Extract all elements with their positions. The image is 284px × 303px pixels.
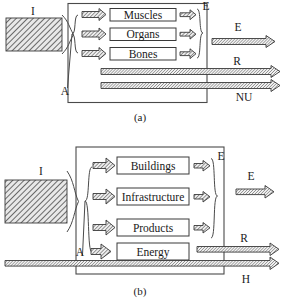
panel-a: I A Muscles Or bbox=[6, 0, 280, 124]
panel-b-output-exergy-label: E bbox=[247, 170, 254, 182]
panel-a-row-muscles: Muscles bbox=[82, 9, 196, 22]
panel-b-inflow-arrow-3 bbox=[93, 220, 115, 235]
panel-b-inflow-arrow-2 bbox=[93, 189, 115, 204]
panel-a-allocation-label: A bbox=[61, 85, 70, 97]
panel-b-box-label-infrastructure: Infrastructure bbox=[122, 191, 185, 203]
panel-b-outflow-arrow-3 bbox=[194, 223, 210, 234]
panel-b: I A Buildings bbox=[5, 147, 279, 298]
panel-a-input-label: I bbox=[31, 5, 35, 17]
panel-b-box-label-energy: Energy bbox=[136, 246, 169, 259]
panel-a-outflow-arrow-2 bbox=[180, 29, 196, 39]
panel-b-outflow-arrow-2 bbox=[194, 192, 210, 203]
panel-a-row-organs: Organs bbox=[82, 28, 196, 41]
panel-b-caption: (b) bbox=[134, 285, 147, 298]
panel-b-allocation-brace bbox=[85, 167, 92, 252]
panel-a-internal-exergy-label: E bbox=[202, 0, 209, 12]
panel-a-inflow-arrow-2 bbox=[82, 28, 106, 40]
panel-a-outflow-arrow-1 bbox=[180, 10, 196, 20]
figure-canvas: I A Muscles Or bbox=[0, 0, 284, 303]
panel-b-row-buildings: Buildings bbox=[93, 157, 210, 174]
panel-a-non-utilized-label: NU bbox=[236, 91, 253, 103]
panel-b-inflow-arrow-4 bbox=[91, 244, 111, 259]
panel-a-box-label-organs: Organs bbox=[126, 28, 160, 41]
panel-a-caption: (a) bbox=[134, 111, 147, 124]
panel-b-input-block bbox=[5, 180, 67, 223]
panel-a-residual-label: R bbox=[233, 55, 241, 67]
panel-a-input-block bbox=[6, 18, 62, 51]
panel-b-residual-label: R bbox=[240, 232, 248, 244]
panel-a-residual-arrow bbox=[101, 66, 280, 78]
panel-b-allocation-label: A bbox=[76, 246, 85, 258]
panel-a-box-label-muscles: Muscles bbox=[124, 9, 163, 21]
panel-a-outflow-arrow-3 bbox=[180, 49, 196, 59]
panel-b-row-infrastructure: Infrastructure bbox=[93, 188, 210, 205]
panel-b-heat-label: H bbox=[242, 273, 250, 285]
panel-b-input-label: I bbox=[39, 165, 43, 177]
panel-b-inflow-arrow-1 bbox=[93, 158, 115, 173]
panel-a-exergy-brace bbox=[197, 9, 203, 58]
panel-b-row-energy: Energy bbox=[91, 243, 189, 260]
panel-a-inflow-arrow-3 bbox=[82, 48, 106, 60]
panel-a-output-exergy-arrow bbox=[212, 36, 275, 48]
panel-b-box-label-buildings: Buildings bbox=[131, 160, 176, 173]
panel-a-inflow-arrow-1 bbox=[82, 9, 106, 21]
panel-b-input-arrowhead bbox=[67, 171, 79, 232]
panel-a-output-exergy-label: E bbox=[234, 21, 241, 33]
panel-a-non-utilized-arrow bbox=[101, 80, 280, 92]
panel-a-row-bones: Bones bbox=[82, 48, 196, 61]
panel-b-exergy-brace bbox=[211, 159, 218, 239]
panel-a-allocation-brace bbox=[72, 15, 78, 53]
panel-b-box-label-products: Products bbox=[133, 222, 174, 234]
panel-b-residual-arrow bbox=[197, 243, 279, 256]
panel-b-outflow-arrow-1 bbox=[194, 161, 210, 172]
panel-b-row-products: Products bbox=[93, 219, 210, 236]
panel-b-internal-exergy-label: E bbox=[217, 150, 224, 162]
two-panel-exergy-diagram: I A Muscles Or bbox=[0, 0, 284, 303]
panel-a-box-label-bones: Bones bbox=[129, 48, 158, 60]
panel-b-output-exergy-arrow bbox=[236, 186, 274, 199]
